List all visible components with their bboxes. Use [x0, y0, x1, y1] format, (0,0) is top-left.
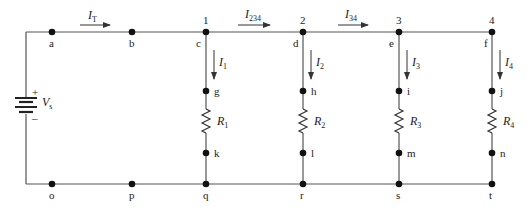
label-i2: I2 — [315, 55, 324, 71]
node-s — [396, 181, 403, 188]
label-r4: R4 — [502, 114, 514, 130]
branch-4 — [488, 32, 496, 184]
node-labels: a b c d e f 1 2 3 4 g h i j k l m n o p … — [49, 14, 506, 201]
label-g: g — [214, 85, 220, 97]
label-j: j — [499, 85, 503, 97]
node-l — [300, 150, 307, 157]
node-d — [300, 29, 307, 36]
parallel-circuit-diagram: + – Vs — [0, 0, 528, 210]
node-i — [396, 88, 403, 95]
voltage-source: + – Vs — [15, 86, 52, 124]
label-r3: R3 — [409, 114, 421, 130]
node-b — [129, 29, 136, 36]
node-q — [203, 181, 210, 188]
junction-2: 2 — [300, 14, 306, 26]
source-label: Vs — [42, 95, 52, 111]
resistor-labels: R1 R2 R3 R4 — [216, 114, 514, 130]
node-o — [49, 181, 56, 188]
label-q: q — [203, 189, 209, 201]
label-a: a — [49, 37, 54, 49]
label-t: t — [489, 189, 492, 201]
branch-1 — [202, 32, 210, 184]
label-i3: I3 — [411, 55, 420, 71]
node-dots — [49, 29, 496, 188]
line-currents: IT I234 I34 — [80, 7, 368, 25]
node-k — [203, 150, 210, 157]
node-t — [489, 181, 496, 188]
node-p — [129, 181, 136, 188]
source-minus-sign: – — [31, 112, 38, 124]
label-d: d — [293, 37, 299, 49]
node-a — [49, 29, 56, 36]
junction-1: 1 — [203, 14, 209, 26]
label-m: m — [407, 147, 416, 159]
resistor-r1 — [202, 109, 210, 133]
label-s: s — [396, 189, 400, 201]
label-i: i — [407, 85, 410, 97]
label-i34: I34 — [344, 7, 357, 23]
label-n: n — [500, 147, 506, 159]
label-r1: R1 — [216, 114, 228, 130]
node-e — [396, 29, 403, 36]
node-h — [300, 88, 307, 95]
label-r: r — [300, 189, 304, 201]
label-k: k — [214, 147, 220, 159]
label-p: p — [129, 189, 135, 201]
branches — [202, 32, 496, 184]
branch-3 — [395, 32, 403, 184]
label-f: f — [484, 37, 488, 49]
label-i4: I4 — [504, 55, 513, 71]
label-b: b — [129, 37, 135, 49]
branch-2 — [299, 32, 307, 184]
label-it: IT — [87, 8, 97, 24]
resistor-r4 — [488, 109, 496, 133]
branch-currents: I1 I2 I3 I4 — [214, 50, 513, 79]
label-i1: I1 — [218, 55, 227, 71]
label-e: e — [389, 37, 394, 49]
node-j — [489, 88, 496, 95]
label-r2: R2 — [313, 114, 325, 130]
node-m — [396, 150, 403, 157]
label-i234: I234 — [244, 7, 261, 23]
source-plus-sign: + — [32, 86, 38, 98]
junction-3: 3 — [396, 14, 402, 26]
resistor-r3 — [395, 109, 403, 133]
resistor-r2 — [299, 109, 307, 133]
label-l: l — [311, 147, 314, 159]
node-c — [203, 29, 210, 36]
label-h: h — [311, 85, 317, 97]
node-f — [489, 29, 496, 36]
node-r — [300, 181, 307, 188]
label-o: o — [49, 189, 55, 201]
wires — [26, 32, 492, 184]
node-n — [489, 150, 496, 157]
junction-4: 4 — [489, 14, 495, 26]
label-c: c — [196, 37, 201, 49]
node-g — [203, 88, 210, 95]
